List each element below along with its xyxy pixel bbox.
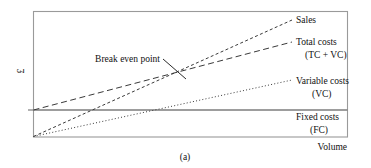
series-line-variable-costs [34, 80, 293, 137]
break-even-figure: £ Volume Break even point Sales Total co… [0, 0, 371, 168]
series-label-sales: Sales [296, 15, 316, 25]
series-label-total-costs: Total costs [296, 37, 337, 47]
series-line-total-costs [34, 42, 293, 110]
break-even-point-label: Break even point [95, 54, 160, 64]
series-label-variable-costs: Variable costs [296, 76, 349, 86]
series-label-total-costs-abbrev: (TC + VC) [305, 50, 347, 61]
series-line-sales [34, 20, 293, 137]
series-label-variable-costs-abbrev: (VC) [312, 89, 332, 100]
series-label-fixed-costs-abbrev: (FC) [310, 125, 328, 136]
series-label-fixed-costs: Fixed costs [296, 112, 339, 122]
chart-canvas: £ Volume Break even point Sales Total co… [0, 0, 371, 168]
figure-caption: (a) [180, 152, 191, 163]
x-axis-label: Volume [318, 142, 347, 152]
y-axis-label: £ [16, 68, 26, 73]
